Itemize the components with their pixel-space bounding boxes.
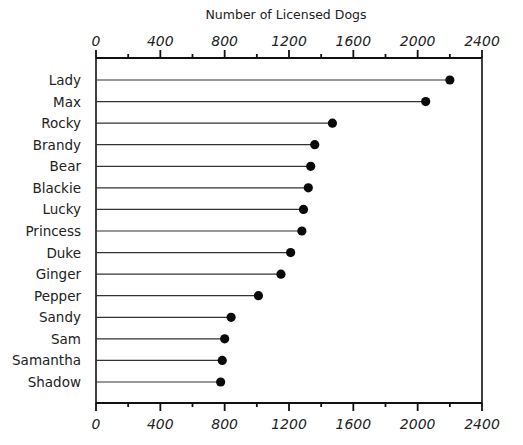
lollipop-chart: Number of Licensed Dogs 0400800120016002…: [0, 0, 523, 445]
data-row: Sandy: [39, 309, 236, 325]
data-row: Lady: [49, 72, 455, 88]
data-row: Brandy: [33, 137, 320, 153]
data-row: Max: [53, 94, 430, 110]
lollipop-dot: [421, 97, 430, 106]
lollipop-dot: [297, 226, 306, 235]
top-tick-label: 2000: [400, 33, 436, 49]
lollipop-dot: [310, 140, 319, 149]
data-row: Pepper: [34, 288, 263, 304]
category-label: Blackie: [32, 180, 81, 196]
bottom-tick-label: 2400: [464, 416, 500, 432]
chart-title: Number of Licensed Dogs: [206, 7, 367, 22]
top-x-axis: 04008001200160020002400: [92, 33, 500, 58]
data-row: Samantha: [12, 352, 227, 368]
lollipop-dot: [220, 334, 229, 343]
data-row: Bear: [50, 158, 316, 174]
data-row: Shadow: [28, 374, 226, 390]
category-label: Lady: [49, 72, 81, 88]
data-row: Rocky: [41, 115, 337, 131]
bottom-tick-label: 1600: [336, 416, 372, 432]
top-tick-label: 400: [147, 33, 174, 49]
bottom-tick-label: 400: [147, 416, 174, 432]
category-label: Duke: [46, 245, 81, 261]
data-row: Lucky: [42, 201, 308, 217]
top-tick-label: 2400: [464, 33, 500, 49]
lollipop-dot: [304, 183, 313, 192]
lollipop-dot: [254, 291, 263, 300]
lollipop-dot: [276, 270, 285, 279]
category-label: Sam: [51, 331, 81, 347]
lollipop-dot: [218, 356, 227, 365]
category-label: Rocky: [41, 115, 81, 131]
bottom-tick-label: 800: [211, 416, 238, 432]
top-tick-label: 0: [92, 33, 101, 49]
lollipop-dot: [328, 119, 337, 128]
category-label: Lucky: [42, 201, 81, 217]
bottom-tick-label: 2000: [400, 416, 436, 432]
lollipop-dot: [216, 377, 225, 386]
lollipop-dot: [227, 313, 236, 322]
category-label: Samantha: [12, 352, 81, 368]
lollipop-dot: [299, 205, 308, 214]
category-label: Princess: [25, 223, 81, 239]
category-label: Sandy: [39, 309, 81, 325]
category-label: Max: [53, 94, 81, 110]
category-label: Bear: [50, 158, 82, 174]
data-rows: LadyMaxRockyBrandyBearBlackieLuckyPrince…: [12, 72, 454, 390]
top-tick-label: 1600: [336, 33, 372, 49]
top-tick-label: 800: [211, 33, 238, 49]
category-label: Pepper: [34, 288, 81, 304]
category-label: Brandy: [33, 137, 81, 153]
lollipop-dot: [445, 75, 454, 84]
category-label: Shadow: [28, 374, 81, 390]
data-row: Princess: [25, 223, 306, 239]
bottom-x-axis: 04008001200160020002400: [92, 403, 500, 432]
lollipop-dot: [306, 162, 315, 171]
data-row: Duke: [46, 245, 295, 261]
data-row: Ginger: [36, 266, 286, 282]
top-tick-label: 1200: [271, 33, 307, 49]
bottom-tick-label: 1200: [271, 416, 307, 432]
category-label: Ginger: [36, 266, 82, 282]
data-row: Blackie: [32, 180, 312, 196]
bottom-tick-label: 0: [92, 416, 101, 432]
lollipop-dot: [286, 248, 295, 257]
data-row: Sam: [51, 331, 229, 347]
